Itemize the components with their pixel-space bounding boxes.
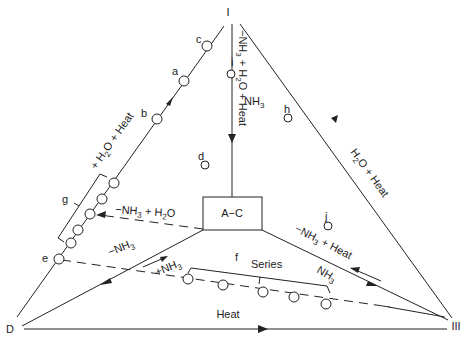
series-point-4 (289, 292, 299, 302)
center-box-label: A−C (221, 207, 243, 219)
point-g1 (109, 178, 119, 188)
series-point-5 (321, 299, 331, 309)
label-box-to-III: −NH3 + Heat (292, 222, 355, 264)
bottom-edge (24, 325, 447, 333)
label-h: h (284, 103, 290, 115)
point-g4 (73, 225, 83, 235)
arrow-down-icon (228, 134, 236, 143)
vertex-label-I: I (226, 6, 229, 18)
point-b (152, 114, 162, 124)
arrow-down-left-icon (100, 278, 112, 285)
right-edge (240, 24, 452, 318)
point-e (54, 254, 64, 264)
series-point-2 (218, 280, 228, 290)
label-bottom-edge: Heat (216, 308, 239, 320)
label-f: f (235, 251, 239, 263)
series-point-1 (183, 274, 193, 284)
series-point-3 (258, 287, 268, 297)
arrow-up-icon (166, 97, 173, 106)
series-points (183, 274, 331, 309)
point-c (202, 41, 212, 51)
vertex-label-III: III (451, 320, 460, 332)
label-III-to-series: NH3 (314, 263, 340, 286)
label-left-edge: + H2O + Heat (88, 110, 138, 173)
label-i: i (231, 56, 233, 68)
label-e: e (42, 252, 48, 264)
arrow-down-right-icon (366, 281, 378, 286)
point-i (227, 70, 235, 78)
point-g5 (66, 238, 76, 248)
label-right-edge: H2O + Heat (346, 146, 391, 201)
point-h (284, 114, 292, 122)
box-to-III-line (262, 230, 448, 320)
vertex-label-D: D (6, 323, 14, 335)
label-j: j (324, 210, 327, 222)
arrow-up-left-icon (350, 267, 360, 273)
label-series: Series (251, 258, 283, 270)
reaction-triangle-diagram: I D III A−C (0, 0, 470, 340)
center-vertical-line (228, 24, 236, 197)
left-edge-points (54, 41, 212, 264)
label-g: g (62, 193, 68, 205)
center-box: A−C (203, 197, 262, 230)
label-a: a (172, 65, 179, 77)
label-c: c (196, 33, 202, 45)
arrow-up-icon (331, 115, 338, 123)
point-a (179, 76, 189, 86)
point-g3 (85, 209, 95, 219)
label-d: d (198, 150, 204, 162)
label-b: b (141, 107, 147, 119)
point-j (324, 222, 332, 230)
arrow-left-icon (96, 211, 106, 218)
arrow-right-icon (258, 325, 268, 333)
point-d (201, 161, 209, 169)
label-center-vertical: −NH3 + H2O + Heat (234, 30, 249, 126)
point-g2 (97, 194, 107, 204)
label-box-to-g: −NH3 + H2O (115, 203, 177, 222)
nh3-return-arrow (350, 267, 381, 281)
label-box-to-D: −NH3 (106, 236, 137, 260)
